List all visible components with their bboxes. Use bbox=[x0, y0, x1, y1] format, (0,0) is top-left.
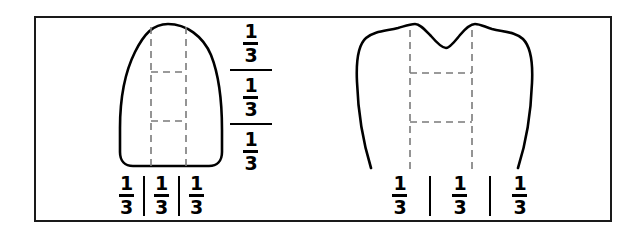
fraction-numerator: 1 bbox=[119, 174, 134, 194]
vertical-fraction-cell-2: 1 3 bbox=[228, 71, 274, 123]
fraction-one-third: 1 3 bbox=[119, 174, 134, 217]
fraction-denominator: 3 bbox=[119, 197, 134, 217]
fraction-denominator: 3 bbox=[243, 99, 258, 119]
fraction-numerator: 1 bbox=[243, 22, 258, 42]
horizontal-fraction-cell-2: 1 3 bbox=[431, 174, 489, 217]
fraction-numerator: 1 bbox=[243, 130, 258, 150]
fraction-one-third: 1 3 bbox=[154, 174, 169, 217]
fraction-numerator: 1 bbox=[392, 174, 407, 194]
fraction-denominator: 3 bbox=[243, 45, 258, 65]
fraction-one-third: 1 3 bbox=[243, 22, 258, 65]
vertical-fraction-cell-3: 1 3 bbox=[228, 125, 274, 177]
fraction-one-third: 1 3 bbox=[452, 174, 467, 217]
molar-horizontal-fraction-row: 1 3 1 3 1 3 bbox=[371, 174, 549, 217]
figure-page: 1 3 1 3 1 3 1 3 bbox=[0, 0, 635, 241]
fraction-one-third: 1 3 bbox=[243, 76, 258, 119]
fraction-denominator: 3 bbox=[452, 197, 467, 217]
fraction-numerator: 1 bbox=[452, 174, 467, 194]
fraction-numerator: 1 bbox=[189, 174, 204, 194]
fraction-one-third: 1 3 bbox=[243, 130, 258, 173]
fraction-one-third: 1 3 bbox=[392, 174, 407, 217]
horizontal-fraction-cell-3: 1 3 bbox=[180, 174, 213, 217]
fraction-denominator: 3 bbox=[392, 197, 407, 217]
fraction-numerator: 1 bbox=[512, 174, 527, 194]
fraction-denominator: 3 bbox=[189, 197, 204, 217]
fraction-numerator: 1 bbox=[154, 174, 169, 194]
fraction-one-third: 1 3 bbox=[189, 174, 204, 217]
incisor-horizontal-fraction-row: 1 3 1 3 1 3 bbox=[110, 174, 213, 217]
incisor-vertical-fraction-stack: 1 3 1 3 1 3 bbox=[228, 17, 274, 177]
horizontal-fraction-cell-2: 1 3 bbox=[145, 174, 178, 217]
fraction-denominator: 3 bbox=[512, 197, 527, 217]
fraction-numerator: 1 bbox=[243, 76, 258, 96]
horizontal-fraction-cell-1: 1 3 bbox=[110, 174, 143, 217]
fraction-denominator: 3 bbox=[154, 197, 169, 217]
horizontal-fraction-cell-1: 1 3 bbox=[371, 174, 429, 217]
fraction-one-third: 1 3 bbox=[512, 174, 527, 217]
vertical-fraction-cell-1: 1 3 bbox=[228, 17, 274, 69]
horizontal-fraction-cell-3: 1 3 bbox=[491, 174, 549, 217]
fraction-denominator: 3 bbox=[243, 153, 258, 173]
